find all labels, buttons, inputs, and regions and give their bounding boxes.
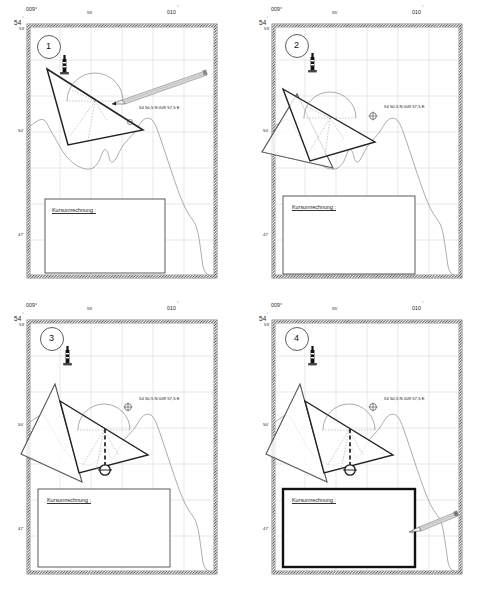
axis-lat-tick-53: 53' [19, 26, 25, 31]
step-number: 2 [294, 40, 299, 50]
axis-lon-mid: 55' [332, 10, 338, 15]
axis-lat-top: 54 [259, 315, 266, 322]
axis-lat-top-degree: ° [22, 312, 23, 316]
axis-lon-right-degree: ° [177, 5, 178, 9]
axis-lon-mid: 55' [87, 306, 93, 311]
axis-lon-right-degree: ° [422, 301, 423, 305]
axis-lon-right: 010 [167, 305, 176, 311]
position-label: 54 50,5 N 009 57,5 E [139, 105, 180, 110]
axis-lon-right: 010 [167, 9, 176, 15]
axis-lon-mid: 55' [87, 10, 93, 15]
axis-lon-left: 009° [271, 6, 282, 12]
panel-2: 2 009° 55' 010 ° 54 ° 53' 50' 47' 54 50,… [245, 0, 490, 296]
axis-lat-tick-50: 50' [18, 128, 24, 133]
axis-lat-tick-53: 53' [264, 322, 270, 327]
position-label: 54 50,5 N 009 57,5 E [384, 104, 425, 109]
axis-lon-left: 009° [26, 302, 37, 308]
axis-lat-top: 54 [259, 19, 266, 26]
panel-1: 1 009° 55' 010 ° 54 ° 53' 50' 47' 54 50,… [0, 0, 245, 296]
position-label: 54 50,5 N 009 57,5 E [384, 396, 425, 401]
axis-lat-tick-47: 47' [18, 526, 24, 531]
panel-3-canvas [0, 296, 245, 592]
panel-4: 4 009° 55' 010 ° 54 ° 53' 50' 47' 54 50,… [245, 296, 490, 592]
axis-lat-tick-47: 47' [263, 232, 269, 237]
panel-2-canvas [245, 0, 490, 296]
axis-lon-right-degree: ° [422, 5, 423, 9]
axis-lat-tick-47: 47' [18, 232, 24, 237]
axis-lat-top-degree: ° [267, 16, 268, 20]
result-box-label: Kursumrechnung : [292, 204, 336, 211]
axis-lat-top-degree: ° [267, 312, 268, 316]
panel-1-canvas [0, 0, 245, 296]
axis-lat-top-degree: ° [22, 16, 23, 20]
panel-3: 3 009° 55' 010 ° 54 ° 53' 50' 47' 54 50,… [0, 296, 245, 592]
result-box-label: Kursumrechnung : [292, 497, 336, 504]
step-number: 4 [294, 333, 299, 343]
axis-lat-top: 54 [14, 315, 21, 322]
position-label: 54 50,5 N 009 57,5 E [139, 396, 180, 401]
axis-lon-mid: 55' [332, 306, 338, 311]
axis-lon-right-degree: ° [177, 301, 178, 305]
axis-lat-tick-50: 50' [263, 128, 269, 133]
result-box-label: Kursumrechnung : [47, 497, 91, 504]
panel-4-canvas [245, 296, 490, 592]
axis-lat-tick-47: 47' [263, 526, 269, 531]
axis-lon-right: 010 [412, 305, 421, 311]
step-number: 3 [49, 333, 54, 343]
axis-lat-top: 54 [14, 19, 21, 26]
figure-sheet: 1 009° 55' 010 ° 54 ° 53' 50' 47' 54 50,… [0, 0, 490, 592]
axis-lat-tick-50: 50' [263, 422, 269, 427]
axis-lon-left: 009° [271, 302, 282, 308]
axis-lat-tick-53: 53' [19, 322, 25, 327]
step-number: 1 [46, 41, 51, 51]
axis-lon-right: 010 [412, 9, 421, 15]
axis-lon-left: 009° [26, 6, 37, 12]
axis-lat-tick-53: 53' [264, 26, 270, 31]
axis-lat-tick-50: 50' [18, 422, 24, 427]
result-box-label: Kursumrechnung : [52, 207, 96, 214]
